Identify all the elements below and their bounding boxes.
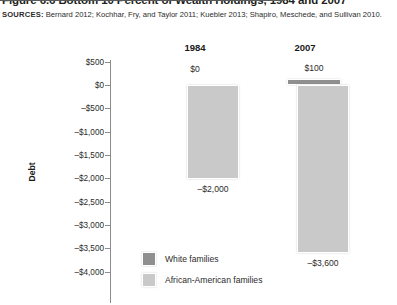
y-tick-mark: [105, 85, 110, 86]
y-tick-label: –$2,500: [44, 198, 104, 207]
legend-swatch-icon: [142, 273, 156, 287]
bar-chart: 1984 2007 $500 $0 –$500 –$1,000 –$1,500 …: [0, 0, 397, 305]
bar-value-white-2007: $100: [269, 63, 359, 73]
legend-label: African-American families: [165, 275, 262, 285]
y-tick-label: –$500: [44, 104, 104, 113]
y-tick-mark: [105, 108, 110, 109]
y-tick-mark: [105, 132, 110, 133]
legend-item-african-american-families[interactable]: African-American families: [142, 271, 262, 288]
y-tick-label: –$1,000: [44, 128, 104, 137]
y-tick-mark: [105, 62, 110, 63]
legend-swatch-icon: [142, 252, 156, 266]
y-tick-mark: [105, 202, 110, 203]
y-axis-line: [110, 60, 111, 303]
chart-legend: White families African-American families: [142, 250, 262, 292]
legend-item-white-families[interactable]: White families: [142, 250, 262, 267]
group-label-2007: 2007: [265, 42, 345, 53]
y-tick-label: –$3,500: [44, 244, 104, 253]
y-axis-title: Debt: [27, 162, 37, 181]
y-tick-mark: [105, 272, 110, 273]
legend-label: White families: [165, 254, 218, 264]
y-tick-mark: [105, 155, 110, 156]
bar-value-african-american-1984: –$2,000: [168, 184, 258, 194]
bar-african-american-2007[interactable]: [297, 85, 349, 253]
zero-baseline: [0, 0, 285, 1]
bar-value-african-american-2007: –$3,600: [278, 258, 368, 268]
group-label-1984: 1984: [155, 42, 235, 53]
y-tick-label: $0: [44, 81, 104, 90]
y-tick-label: –$2,000: [44, 174, 104, 183]
y-tick-label: $500: [44, 58, 104, 67]
bar-african-american-1984[interactable]: [187, 85, 239, 179]
y-tick-mark: [105, 225, 110, 226]
y-tick-label: –$4,000: [44, 268, 104, 277]
bar-value-white-1984: $0: [150, 64, 240, 74]
y-tick-label: –$1,500: [44, 151, 104, 160]
y-tick-mark: [105, 178, 110, 179]
y-tick-label: –$3,000: [44, 221, 104, 230]
y-tick-mark: [105, 248, 110, 249]
